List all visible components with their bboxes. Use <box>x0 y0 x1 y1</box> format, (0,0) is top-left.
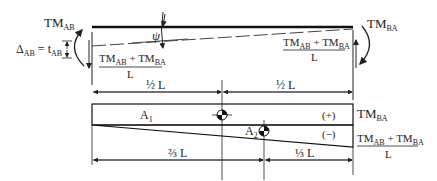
sign-negative: (−) <box>322 128 336 141</box>
area-a2-label: A2 <box>245 124 258 140</box>
psi-label: ψ <box>152 28 161 43</box>
centroid-a2-icon <box>259 126 269 136</box>
reaction-left-denominator: L <box>127 68 134 80</box>
negative-moment-area <box>92 125 353 147</box>
dim-top-right: ½ L <box>276 78 295 92</box>
reaction-left-numerator: TMAB + TMBA <box>99 52 166 67</box>
area-a1-label: A1 <box>140 108 153 124</box>
moment-arrow-left-icon <box>74 30 84 66</box>
psi-arc-icon <box>162 12 164 48</box>
diagram-right-denominator: L <box>385 148 392 160</box>
moment-arrow-right-icon <box>360 26 370 64</box>
sign-positive: (+) <box>322 109 336 122</box>
dim-top-left: ½ L <box>146 78 165 92</box>
tm-ba-label: TMBA <box>367 16 398 33</box>
dim-bottom-left: ⅔ L <box>168 146 187 160</box>
deflection-label: ΔAB = tAB <box>16 42 62 58</box>
centroid-a1-icon <box>212 110 232 120</box>
diagram-right-numerator: TMAB + TMBA <box>357 132 424 147</box>
reaction-right-denominator: L <box>311 51 318 63</box>
reaction-right-numerator: TMAB + TMBA <box>283 36 350 51</box>
dim-bottom-right: ⅓ L <box>295 146 314 160</box>
moment-area-diagram: ψ TMAB ΔAB = tAB TMAB + TMBA L TMAB + TM… <box>0 0 437 181</box>
tm-ab-label: TMAB <box>44 15 75 32</box>
diagram-tm-ba-label: TMBA <box>357 106 388 123</box>
